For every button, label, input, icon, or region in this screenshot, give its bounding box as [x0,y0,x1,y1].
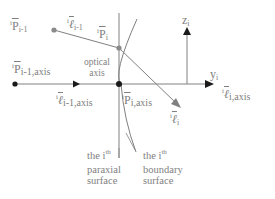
label-symbol: P [99,27,106,41]
caption-line: boundary [143,164,183,176]
label-p-i: iPi [97,25,108,41]
label-subscript: i-1,axis [63,97,93,108]
label-prefix: i [10,19,12,27]
label-l-prev-axis: iℓi-1,axis [56,91,93,107]
label-symbol: P [12,19,19,33]
label-l-prev: iℓi-1 [67,15,83,31]
caption-line: surface [143,175,183,187]
label-optical-axis: optical axis [78,57,116,78]
label-prefix: i [97,27,99,35]
label-p-prev: iPi-1 [10,17,28,33]
label-subscript: i,axis [131,97,152,108]
label-subscript: i [177,118,179,127]
label-subscript: i [187,19,189,28]
label-subscript: i-1 [19,25,28,34]
label-subscript: i [216,73,218,82]
point-p-prev-axis-dot [12,81,17,86]
caption-paraxial-surface: the ith paraxial surface [87,150,121,187]
caption-superscript: th [161,148,166,156]
label-prefix: i [122,93,124,101]
label-subscript: i-1 [74,23,83,32]
label-l-i-axis: iℓi,axis [222,85,250,101]
y-axis-arrowhead-icon [205,80,214,88]
caption-line: surface [87,175,121,187]
z-axis-arrowhead-icon [183,27,191,35]
label-y-axis: yi [210,65,218,81]
label-prefix: i [222,87,224,95]
label-subscript: i [106,33,108,42]
label-subscript: i,axis [229,91,250,102]
caption-line: paraxial [87,164,121,176]
label-prefix: i [67,17,69,25]
label-l-i: iℓi [170,110,179,126]
point-p-prev-dot [51,27,56,32]
point-p-i-dot [116,45,121,50]
axis-direction-arrow-icon [73,81,80,88]
caption-superscript: th [105,148,110,156]
label-z-axis: zi [182,11,190,27]
label-symbol: P [124,93,131,107]
label-prefix: i [170,112,172,120]
label-prefix: i [56,93,58,101]
caption-line: the i [143,150,161,161]
label-subscript: i-1,axis [21,66,51,77]
label-p-i-axis: iPi,axis [122,91,152,107]
label-p-prev-axis: iPi-1,axis [12,60,50,76]
ray-l-prev [54,30,119,48]
label-prefix: i [12,62,14,70]
label-symbol: P [14,62,21,76]
caption-line: the i [87,150,105,161]
point-p-i-axis-dot [116,81,122,87]
caption-boundary-surface: the ith boundary surface [143,150,183,187]
